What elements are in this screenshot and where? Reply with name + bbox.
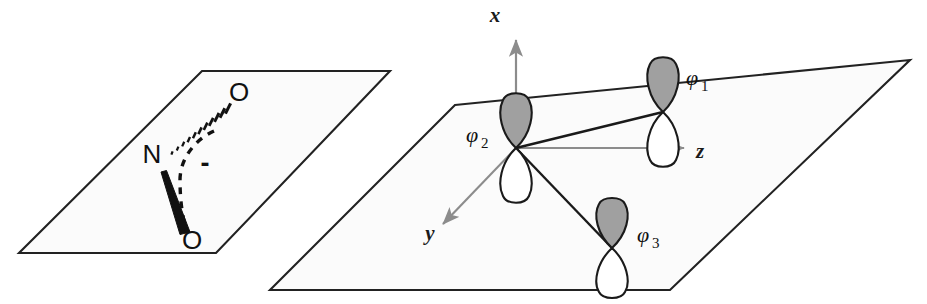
orbital-phi-3-label-subscript: 3 xyxy=(652,235,660,251)
figure-root: N O O - xyxy=(0,0,927,304)
atom-label-n: N xyxy=(143,139,162,169)
axis-x-label: x xyxy=(489,3,501,27)
orbital-phi-3-label-symbol: φ xyxy=(637,222,649,247)
negative-charge-label: - xyxy=(201,148,210,178)
axis-z-label: z xyxy=(695,139,705,163)
orbital-phi-2-label-subscript: 2 xyxy=(481,135,489,151)
atom-label-o-lower: O xyxy=(182,225,202,255)
orbital-phi-1-label-symbol: φ xyxy=(686,65,698,90)
orbital-phi-1-label-subscript: 1 xyxy=(701,78,709,94)
orbital-basis-panel: x y z φ 1 φ 2 φ 3 xyxy=(270,3,910,298)
orbital-phi-2-label-symbol: φ xyxy=(466,122,478,147)
orbital-diagram-canvas: N O O - xyxy=(0,0,927,304)
atom-label-o-upper: O xyxy=(229,77,249,107)
orbital-phi-1-label: φ 1 xyxy=(686,65,709,94)
